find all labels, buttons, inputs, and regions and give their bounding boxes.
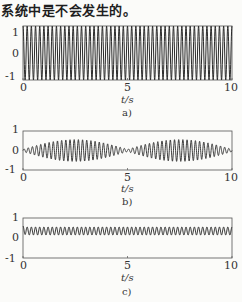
signal-line (23, 226, 232, 235)
ytick-1: 1 (12, 212, 19, 223)
xtick-5: 5 (124, 260, 131, 271)
xtick-10: 10 (224, 260, 238, 271)
x-axis-label: t/s (121, 273, 134, 283)
plot-frame (23, 218, 232, 258)
figure-caption: c) (122, 287, 132, 297)
ytick-neg1: -1 (5, 253, 16, 264)
plot-c-canvas (0, 0, 242, 302)
xtick-0: 0 (20, 260, 27, 271)
ytick-0: 0 (12, 232, 19, 243)
